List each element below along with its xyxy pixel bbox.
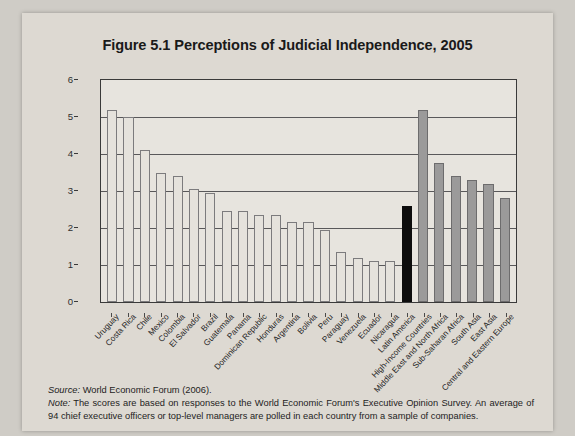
bar-venezuela	[353, 258, 363, 302]
bar-east-asia	[483, 184, 493, 302]
bar-mexico	[156, 173, 166, 303]
bar-costa-rica	[123, 117, 133, 302]
bar-argentina	[287, 222, 297, 302]
y-axis-tick-mark	[74, 264, 78, 265]
bar-central-and-eastern-europe	[500, 198, 510, 302]
source-label: Source:	[48, 385, 80, 395]
source-text: World Economic Forum (2006).	[80, 385, 212, 395]
bar-latin-america	[402, 206, 412, 302]
bar-slot	[153, 80, 169, 302]
page-title: Figure 5.1 Perceptions of Judicial Indep…	[22, 37, 553, 53]
bar-chile	[140, 150, 150, 302]
bar-chart: 0123456	[78, 69, 517, 303]
bar-high-income-countries	[418, 110, 428, 302]
note-label: Note:	[48, 398, 70, 408]
plot-area	[100, 79, 517, 303]
bar-panama	[238, 211, 248, 302]
y-axis-tick-label: 3	[68, 185, 73, 196]
bar-sub-saharan-africa	[451, 176, 461, 302]
bar-series	[101, 80, 516, 302]
bar-slot	[464, 80, 480, 302]
figure-notes: Source: World Economic Forum (2006). Not…	[48, 384, 534, 422]
y-axis-tick-mark	[74, 153, 78, 154]
bar-middle-east-and-north-africa	[434, 163, 444, 302]
bar-dominican-republic	[254, 215, 264, 302]
bar-honduras	[271, 215, 281, 302]
bar-slot	[284, 80, 300, 302]
bar-ecuador	[369, 261, 379, 302]
bar-uruguay	[107, 110, 117, 302]
y-axis-tick-label: 0	[68, 296, 73, 307]
bar-slot	[169, 80, 185, 302]
bar-slot	[120, 80, 136, 302]
y-axis-tick-mark	[74, 301, 78, 302]
bar-slot	[382, 80, 398, 302]
y-axis-tick-mark	[74, 190, 78, 191]
bar-slot	[366, 80, 382, 302]
y-axis-tick-mark	[74, 116, 78, 117]
bar-slot	[251, 80, 267, 302]
bar-slot	[300, 80, 316, 302]
bar-slot	[186, 80, 202, 302]
note-text: The scores are based on responses to the…	[48, 398, 534, 420]
bar-slot	[448, 80, 464, 302]
bar-slot	[333, 80, 349, 302]
bar-guatemala	[222, 211, 232, 302]
bar-slot	[497, 80, 513, 302]
source-line: Source: World Economic Forum (2006).	[48, 384, 534, 396]
bar-slot	[398, 80, 414, 302]
bar-slot	[104, 80, 120, 302]
bar-slot	[349, 80, 365, 302]
y-axis-tick-label: 5	[68, 111, 73, 122]
bar-slot	[235, 80, 251, 302]
note-line: Note: The scores are based on responses …	[48, 397, 534, 422]
bar-nicaragua	[385, 261, 395, 302]
y-axis-tick-label: 1	[68, 259, 73, 270]
bar-el-salvador	[189, 189, 199, 302]
bar-paraguay	[336, 252, 346, 302]
bar-brazil	[205, 193, 215, 302]
y-axis-tick-label: 6	[68, 74, 73, 85]
bar-slot	[137, 80, 153, 302]
bar-slot	[317, 80, 333, 302]
bar-slot	[415, 80, 431, 302]
y-axis-tick-mark	[74, 79, 78, 80]
bar-slot	[219, 80, 235, 302]
y-axis-tick-label: 4	[68, 148, 73, 159]
scanned-page: Figure 5.1 Perceptions of Judicial Indep…	[22, 13, 553, 431]
bar-slot	[480, 80, 496, 302]
bar-slot	[431, 80, 447, 302]
bar-south-asia	[467, 180, 477, 302]
bar-bolivia	[303, 222, 313, 302]
bar-slot	[268, 80, 284, 302]
bar-slot	[202, 80, 218, 302]
bar-peru	[320, 230, 330, 302]
bar-colombia	[173, 176, 183, 302]
y-axis-tick-mark	[74, 227, 78, 228]
y-axis-tick-label: 2	[68, 222, 73, 233]
